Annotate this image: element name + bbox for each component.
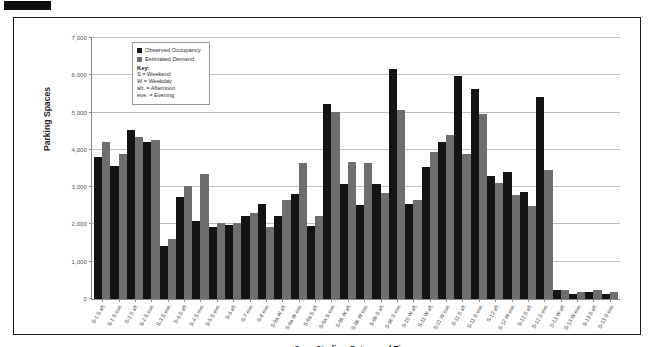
bar-observed[interactable]	[585, 292, 593, 299]
bar-estimated[interactable]	[217, 223, 225, 299]
bar-group[interactable]	[307, 38, 323, 299]
bar-group[interactable]	[405, 38, 421, 299]
bar-observed[interactable]	[176, 197, 184, 299]
bar-estimated[interactable]	[413, 200, 421, 299]
bar-observed[interactable]	[356, 205, 364, 299]
bar-estimated[interactable]	[512, 195, 520, 299]
bar-estimated[interactable]	[479, 114, 487, 299]
bar-group[interactable]	[503, 38, 519, 299]
bar-observed[interactable]	[160, 246, 168, 299]
x-axis-tick-label: S-4 S aft.	[172, 303, 188, 325]
bar-group[interactable]	[372, 38, 388, 299]
bar-group[interactable]	[340, 38, 356, 299]
bar-observed[interactable]	[127, 130, 135, 299]
bar-estimated[interactable]	[381, 193, 389, 299]
bar-observed[interactable]	[536, 97, 544, 299]
bar-estimated[interactable]	[282, 200, 290, 299]
redaction-bar	[4, 1, 51, 10]
bar-estimated[interactable]	[348, 162, 356, 299]
bar-observed[interactable]	[438, 142, 446, 299]
bar-estimated[interactable]	[528, 206, 536, 299]
bar-group[interactable]	[258, 38, 274, 299]
bar-estimated[interactable]	[364, 163, 372, 299]
bar-observed[interactable]	[110, 166, 118, 299]
bar-group[interactable]	[274, 38, 290, 299]
bar-group[interactable]	[422, 38, 438, 299]
bar-estimated[interactable]	[102, 142, 110, 299]
legend-key-line-weekend: S = Weekend	[137, 71, 205, 78]
bar-observed[interactable]	[569, 294, 577, 299]
bar-estimated[interactable]	[446, 135, 454, 299]
bar-observed[interactable]	[520, 192, 528, 299]
bar-observed[interactable]	[323, 104, 331, 299]
bar-estimated[interactable]	[495, 183, 503, 299]
bar-group[interactable]	[438, 38, 454, 299]
bar-group[interactable]	[553, 38, 569, 299]
bar-observed[interactable]	[553, 290, 561, 299]
bar-estimated[interactable]	[250, 213, 258, 299]
bar-estimated[interactable]	[331, 112, 339, 299]
bar-observed[interactable]	[307, 226, 315, 299]
bar-estimated[interactable]	[151, 140, 159, 299]
bar-observed[interactable]	[225, 225, 233, 299]
bar-estimated[interactable]	[200, 174, 208, 299]
bar-group[interactable]	[209, 38, 225, 299]
bar-observed[interactable]	[471, 89, 479, 299]
bar-estimated[interactable]	[610, 292, 618, 299]
bar-estimated[interactable]	[168, 239, 176, 299]
bar-estimated[interactable]	[299, 163, 307, 299]
bar-estimated[interactable]	[462, 154, 470, 299]
bar-group[interactable]	[94, 38, 110, 299]
bar-group[interactable]	[389, 38, 405, 299]
bar-group[interactable]	[225, 38, 241, 299]
bar-estimated[interactable]	[544, 170, 552, 299]
bar-estimated[interactable]	[397, 110, 405, 299]
bar-estimated[interactable]	[561, 290, 569, 299]
bar-observed[interactable]	[291, 194, 299, 299]
bar-group[interactable]	[291, 38, 307, 299]
bar-observed[interactable]	[143, 142, 151, 299]
bar-observed[interactable]	[94, 157, 102, 299]
legend-label-estimated: Estimated Demand	[145, 56, 194, 62]
bar-group[interactable]	[536, 38, 552, 299]
bar-observed[interactable]	[487, 176, 495, 299]
bar-estimated[interactable]	[119, 154, 127, 299]
bar-group[interactable]	[602, 38, 618, 299]
y-axis-title: Parking Spaces	[42, 69, 52, 169]
bar-group[interactable]	[471, 38, 487, 299]
x-axis-label-slot: S-11 S eve.	[470, 302, 486, 344]
bar-observed[interactable]	[405, 204, 413, 299]
bar-estimated[interactable]	[593, 290, 601, 299]
y-axis-tick-label: 1,000	[72, 257, 87, 264]
bar-group[interactable]	[110, 38, 126, 299]
bar-observed[interactable]	[340, 184, 348, 299]
bar-estimated[interactable]	[135, 137, 143, 299]
bar-group[interactable]	[241, 38, 257, 299]
bar-estimated[interactable]	[184, 186, 192, 299]
bar-estimated[interactable]	[233, 223, 241, 299]
bar-observed[interactable]	[602, 294, 610, 299]
bar-observed[interactable]	[241, 216, 249, 299]
bar-group[interactable]	[323, 38, 339, 299]
bar-observed[interactable]	[422, 167, 430, 299]
bar-observed[interactable]	[454, 76, 462, 299]
bar-observed[interactable]	[274, 216, 282, 299]
x-axis-tick-labels: S-1 S aft.S-1 S eve.S-2 S aft.S-2 S eve.…	[91, 302, 620, 344]
bar-observed[interactable]	[192, 221, 200, 299]
bar-group[interactable]	[569, 38, 585, 299]
bar-estimated[interactable]	[577, 292, 585, 299]
bar-estimated[interactable]	[315, 216, 323, 299]
bar-observed[interactable]	[258, 204, 266, 299]
bar-observed[interactable]	[503, 172, 511, 299]
bar-observed[interactable]	[209, 227, 217, 299]
bar-group[interactable]	[356, 38, 372, 299]
bar-estimated[interactable]	[266, 227, 274, 299]
bar-group[interactable]	[454, 38, 470, 299]
bar-observed[interactable]	[389, 69, 397, 299]
bar-group[interactable]	[487, 38, 503, 299]
bar-estimated[interactable]	[430, 152, 438, 299]
bar-observed[interactable]	[372, 184, 380, 299]
bar-group[interactable]	[585, 38, 601, 299]
bar-group[interactable]	[520, 38, 536, 299]
x-axis-tick-label: S-7 eve.	[239, 303, 254, 323]
